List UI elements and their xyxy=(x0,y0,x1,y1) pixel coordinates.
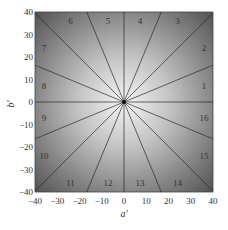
x-tick-label: 0 xyxy=(122,196,127,206)
x-tick-label: −30 xyxy=(50,196,65,206)
sector-label: 16 xyxy=(200,113,210,123)
sector-label: 2 xyxy=(202,43,207,53)
y-tick-label: 0 xyxy=(29,97,34,107)
x-axis-label: a′ xyxy=(120,208,128,219)
sector-label: 13 xyxy=(135,178,145,188)
sector-label: 14 xyxy=(173,178,183,188)
sector-label: 7 xyxy=(42,43,47,53)
y-tick-label: 40 xyxy=(24,7,34,17)
x-tick-label: 20 xyxy=(164,196,174,206)
sector-label: 1 xyxy=(202,81,207,91)
y-tick-label: −30 xyxy=(19,165,34,175)
x-tick-label: 40 xyxy=(209,196,219,206)
y-axis-label: b′ xyxy=(5,100,16,108)
sector-label: 8 xyxy=(42,81,47,91)
sector-label: 10 xyxy=(39,151,49,161)
sector-chart: 12345678910111213141516 −40−30−20−100102… xyxy=(0,0,228,230)
x-tick-label: 30 xyxy=(186,196,196,206)
y-tick-label: −10 xyxy=(19,120,34,130)
sector-label: 9 xyxy=(42,113,47,123)
sector-label: 5 xyxy=(106,16,111,26)
y-tick-label: 30 xyxy=(24,30,34,40)
sector-label: 3 xyxy=(175,16,180,26)
y-tick-label: −40 xyxy=(19,187,34,197)
x-tick-label: 10 xyxy=(142,196,152,206)
origin-point xyxy=(122,100,126,104)
y-tick-label: 20 xyxy=(24,52,34,62)
y-axis-ticks: −40−30−20−10010203040 xyxy=(19,7,34,197)
y-tick-label: −20 xyxy=(19,142,34,152)
x-tick-label: −40 xyxy=(28,196,43,206)
y-tick-label: 10 xyxy=(24,75,34,85)
sector-label: 15 xyxy=(200,151,210,161)
sector-label: 12 xyxy=(104,178,113,188)
x-tick-label: −10 xyxy=(95,196,110,206)
sector-label: 11 xyxy=(66,178,75,188)
sector-label: 4 xyxy=(138,16,143,26)
sector-label: 6 xyxy=(68,16,73,26)
x-axis-ticks: −40−30−20−10010203040 xyxy=(28,196,218,206)
x-tick-label: −20 xyxy=(72,196,87,206)
